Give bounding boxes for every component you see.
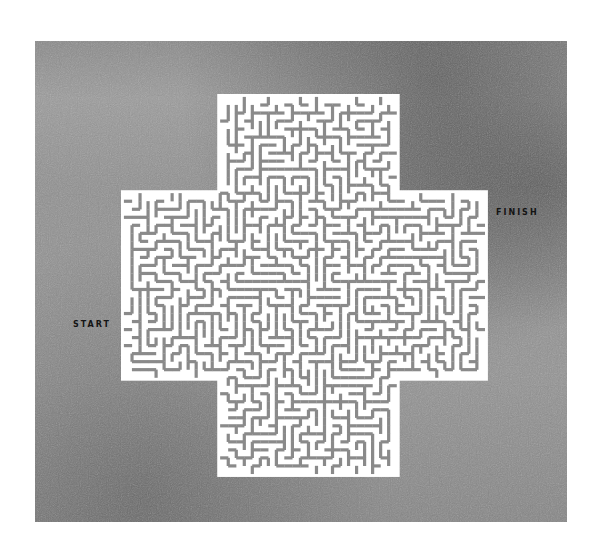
finish-label: FINISH bbox=[496, 208, 539, 217]
maze-board[interactable] bbox=[0, 0, 599, 553]
start-label: START bbox=[73, 320, 111, 329]
